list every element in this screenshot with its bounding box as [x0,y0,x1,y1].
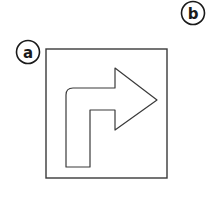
panel-label-b-text: b [188,5,199,23]
figure-container: a b [0,0,206,197]
panel-label-a-text: a [23,44,33,62]
panel-label-a: a [17,41,40,64]
panel-label-b: b [182,2,205,25]
square-frame [46,49,167,178]
figure-svg: a b [0,0,206,197]
